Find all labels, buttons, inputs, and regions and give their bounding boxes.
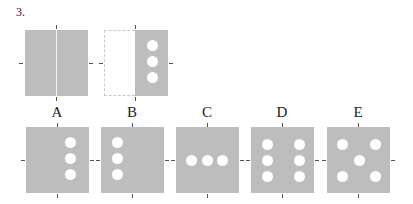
option-label: B [122,104,142,121]
option-label: C [197,104,217,121]
option-label: D [272,104,292,121]
question-number: 3. [16,5,25,20]
option-label: A [47,104,67,121]
option-label: E [348,104,368,121]
fold-line [56,30,57,96]
